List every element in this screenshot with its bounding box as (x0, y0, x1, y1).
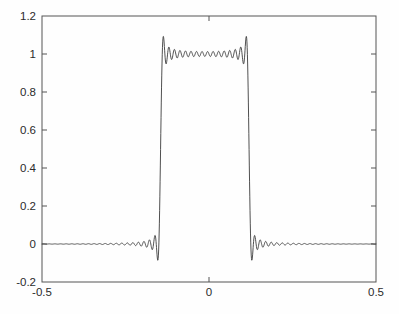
y-axis-tick-marks (42, 54, 376, 244)
data-series-line (42, 36, 376, 260)
ytick-label-1.2: 1.2 (6, 10, 36, 22)
ytick-label-0.2: 0.2 (6, 200, 36, 212)
figure-container: 1.2 1 0.8 0.6 0.4 0.2 0 -0.2 -0.5 0 0.5 (0, 0, 399, 314)
ytick-label-1: 1 (6, 48, 36, 60)
xtick-label--0.5: -0.5 (32, 286, 52, 298)
ytick-label-0.6: 0.6 (6, 124, 36, 136)
ytick-label-0.4: 0.4 (6, 162, 36, 174)
ytick-label-0.8: 0.8 (6, 86, 36, 98)
xtick-label-0.5: 0.5 (368, 286, 384, 298)
axes-box (42, 16, 376, 282)
xtick-label-0: 0 (206, 286, 212, 298)
plot-canvas (0, 0, 399, 314)
ytick-label--0.2: -0.2 (2, 276, 36, 288)
ytick-label-0: 0 (6, 238, 36, 250)
